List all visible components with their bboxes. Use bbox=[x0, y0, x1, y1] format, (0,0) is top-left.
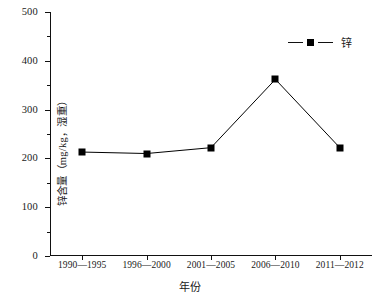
y-axis-tick-label: 400 bbox=[22, 56, 38, 67]
data-point-marker bbox=[336, 144, 343, 151]
x-axis-category-label: 2006—2010 bbox=[251, 260, 299, 270]
x-axis-category-labels: 1990—19951996—20002001—20052006—20102011… bbox=[50, 260, 372, 276]
data-point-marker bbox=[208, 144, 215, 151]
y-axis-tick-label: 500 bbox=[22, 7, 38, 18]
legend-line-icon bbox=[318, 42, 333, 43]
x-axis-category-label: 2001—2005 bbox=[187, 260, 235, 270]
x-axis-title: 年份 bbox=[0, 278, 380, 294]
legend-square-marker-icon bbox=[307, 39, 314, 46]
y-axis-tick-label: 200 bbox=[22, 153, 38, 164]
data-point-marker bbox=[79, 149, 86, 156]
x-axis-category-label: 1990—1995 bbox=[58, 260, 106, 270]
x-axis-category-label: 2011—2012 bbox=[316, 260, 364, 270]
data-point-marker bbox=[272, 76, 279, 83]
x-axis-category-label: 1996—2000 bbox=[122, 260, 170, 270]
data-point-marker bbox=[143, 150, 150, 157]
y-axis-tick-label: 100 bbox=[22, 202, 38, 213]
legend: 锌 bbox=[288, 34, 352, 50]
legend-label-zinc: 锌 bbox=[341, 34, 352, 50]
plot-area: 0100200300400500 锌 bbox=[50, 12, 372, 256]
zinc-content-line-chart: 锌含量（mg/kg，湿重） 0100200300400500 锌 1990—19… bbox=[0, 0, 380, 302]
legend-line-icon bbox=[288, 42, 303, 43]
y-axis-tick-label: 0 bbox=[33, 251, 38, 262]
y-axis-tick-label: 300 bbox=[22, 104, 38, 115]
y-axis-tick: 0 bbox=[45, 256, 50, 257]
